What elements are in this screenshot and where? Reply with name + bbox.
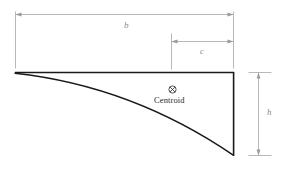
dimension-label-c: c [200, 47, 204, 56]
figure-canvas [0, 0, 289, 170]
arrow-left-icon [16, 13, 22, 17]
spandrel-outline [15, 72, 234, 156]
arrow-left-icon [172, 40, 178, 44]
arrow-right-icon [228, 13, 234, 17]
dimension-arrowheads [16, 13, 261, 156]
arrow-down-icon [257, 150, 261, 156]
dimension-label-b: b [124, 21, 129, 30]
spandrel-curve-edge [15, 73, 234, 155]
centroid-label: Centroid [154, 96, 185, 105]
arrow-right-icon [228, 40, 234, 44]
circle-x-icon [169, 86, 176, 93]
arrow-up-icon [257, 73, 261, 79]
dimension-label-h: h [267, 108, 272, 117]
spandrel-figure: b c h Centroid [0, 0, 289, 170]
